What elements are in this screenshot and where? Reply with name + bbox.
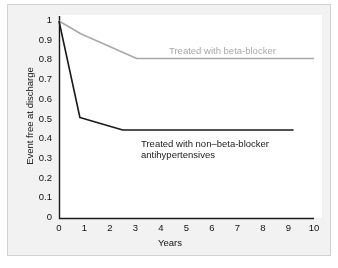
y-tick-label: 0.4: [26, 132, 52, 143]
figure-panel: Event free at discharge Years 00.10.20.3…: [7, 4, 331, 256]
y-tick-label: 0.6: [26, 93, 52, 104]
y-tick-label: 0.3: [26, 152, 52, 163]
y-tick-label: 0.1: [26, 191, 52, 202]
x-tick-label: 2: [100, 222, 120, 233]
x-axis-label: Years: [8, 237, 332, 248]
x-tick-label: 5: [177, 222, 197, 233]
x-tick-label: 6: [202, 222, 222, 233]
x-tick-label: 9: [279, 222, 299, 233]
y-tick-label: 0: [26, 211, 52, 222]
chart-plot-area: [8, 5, 332, 257]
y-tick-label: 0.7: [26, 73, 52, 84]
series-annotation-non-beta-blocker: Treated with non–beta-blocker antihypert…: [141, 138, 269, 160]
x-tick-label: 10: [304, 222, 324, 233]
y-tick-label: 0.5: [26, 113, 52, 124]
series-annotation-beta-blocker: Treated with beta-blocker: [169, 45, 276, 56]
x-tick-label: 4: [151, 222, 171, 233]
x-tick-label: 8: [253, 222, 273, 233]
x-tick-label: 0: [49, 222, 69, 233]
y-tick-label: 0.9: [26, 34, 52, 45]
x-tick-label: 3: [126, 222, 146, 233]
x-tick-label: 7: [228, 222, 248, 233]
y-tick-label: 0.8: [26, 53, 52, 64]
y-tick-label: 0.2: [26, 172, 52, 183]
y-tick-label: 1: [26, 14, 52, 25]
x-tick-label: 1: [75, 222, 95, 233]
